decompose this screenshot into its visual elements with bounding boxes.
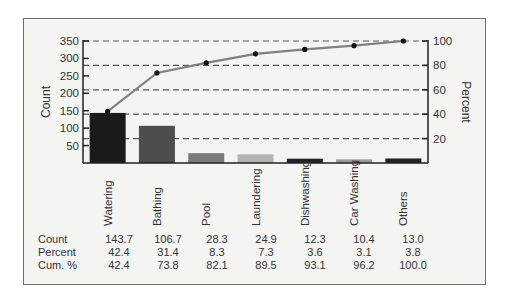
cumulative-point bbox=[204, 60, 209, 65]
bar-watering bbox=[90, 113, 126, 163]
y2-tick-label: 80 bbox=[433, 59, 446, 71]
cell: 10.4 bbox=[339, 233, 389, 245]
cell: 7.3 bbox=[241, 246, 291, 258]
y-tick-label: 150 bbox=[60, 105, 79, 117]
row-label: Percent bbox=[38, 246, 76, 258]
y-tick-label: 250 bbox=[60, 70, 79, 82]
cell: 3.6 bbox=[290, 246, 340, 258]
y2-tick-label: 100 bbox=[433, 35, 452, 47]
bar-bathing bbox=[139, 126, 175, 163]
cumulative-point bbox=[154, 70, 159, 75]
category-label: Laundering bbox=[250, 168, 262, 226]
category-label: Watering bbox=[102, 180, 114, 226]
cell: 100.0 bbox=[388, 259, 438, 271]
cell: 42.4 bbox=[94, 259, 144, 271]
row-label: Count bbox=[38, 233, 67, 245]
cell: 93.1 bbox=[290, 259, 340, 271]
y-tick-label: 350 bbox=[60, 35, 79, 47]
category-label: Others bbox=[397, 191, 409, 226]
y2-tick-label: 40 bbox=[433, 108, 446, 120]
cell: 28.3 bbox=[192, 233, 242, 245]
y2-tick-label: 60 bbox=[433, 84, 446, 96]
y-tick-label: 300 bbox=[60, 52, 79, 64]
cumulative-point bbox=[302, 47, 307, 52]
cell: 89.5 bbox=[241, 259, 291, 271]
cell: 106.7 bbox=[143, 233, 193, 245]
cell: 13.0 bbox=[388, 233, 438, 245]
y-tick-label: 50 bbox=[66, 140, 79, 152]
category-label: Bathing bbox=[151, 187, 163, 226]
y-axis-label: Count bbox=[39, 85, 53, 118]
cell: 31.4 bbox=[143, 246, 193, 258]
cumulative-point bbox=[253, 51, 258, 56]
category-label: Car Washing bbox=[348, 160, 360, 226]
cumulative-point bbox=[105, 109, 110, 114]
cell: 24.9 bbox=[241, 233, 291, 245]
y2-axis-label: Percent bbox=[459, 81, 473, 123]
y2-tick-label: 20 bbox=[433, 133, 446, 145]
bar-laundering bbox=[238, 154, 274, 163]
category-label: Dishwashing bbox=[299, 161, 311, 226]
row-label: Cum. % bbox=[38, 259, 77, 271]
cell: 96.2 bbox=[339, 259, 389, 271]
cell: 8.3 bbox=[192, 246, 242, 258]
cumulative-point bbox=[351, 43, 356, 48]
cell: 143.7 bbox=[94, 233, 144, 245]
y-tick-label: 200 bbox=[60, 87, 79, 99]
cell: 82.1 bbox=[192, 259, 242, 271]
cumulative-point bbox=[401, 38, 406, 43]
cell: 3.8 bbox=[388, 246, 438, 258]
cell: 73.8 bbox=[143, 259, 193, 271]
category-label: Pool bbox=[200, 203, 212, 226]
cell: 3.1 bbox=[339, 246, 389, 258]
cell: 12.3 bbox=[290, 233, 340, 245]
bar-pool bbox=[188, 153, 224, 163]
y-tick-label: 100 bbox=[60, 122, 79, 134]
cell: 42.4 bbox=[94, 246, 144, 258]
